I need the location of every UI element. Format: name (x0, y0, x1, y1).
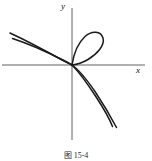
plot-area: y x (0, 0, 152, 152)
curve-group (10, 32, 117, 127)
curve-plot (0, 0, 152, 152)
axes-group (2, 8, 145, 140)
node-point-marker (71, 64, 74, 67)
figure-container: y x 图 15-4 (0, 0, 152, 161)
y-axis-label: y (61, 2, 65, 11)
curve-loop (72, 32, 103, 65)
x-axis-label: x (136, 66, 140, 75)
figure-caption: 图 15-4 (0, 151, 152, 161)
